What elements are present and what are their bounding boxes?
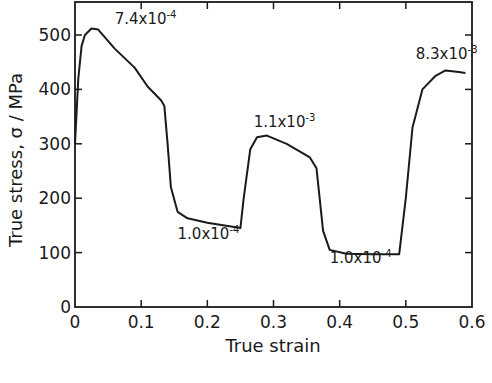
x-tick-label: 0.3: [260, 312, 287, 332]
y-tick-label: 200: [39, 188, 71, 208]
y-tick-label: 0: [60, 297, 71, 317]
strain-rate-label: 1.0x10-4: [330, 248, 392, 267]
y-tick-label: 100: [39, 243, 71, 263]
strain-rate-label: 7.4x10-4: [115, 9, 177, 28]
y-axis-ticks: 0100200300400500: [39, 25, 472, 317]
strain-rate-label: 8.3x10-3: [416, 44, 478, 63]
plot-frame: [75, 2, 472, 307]
y-tick-label: 400: [39, 79, 71, 99]
x-tick-label: 0.1: [128, 312, 155, 332]
x-tick-label: 0: [70, 312, 81, 332]
strain-rate-label: 1.0x10-4: [178, 224, 240, 243]
stress-strain-curve: [75, 29, 465, 255]
y-tick-label: 500: [39, 25, 71, 45]
x-tick-label: 0.2: [194, 312, 221, 332]
x-tick-label: 0.4: [326, 312, 353, 332]
x-tick-label: 0.5: [392, 312, 419, 332]
stress-strain-chart: 00.10.20.30.40.50.6 0100200300400500 7.4…: [0, 0, 492, 383]
x-axis-title: True strain: [224, 335, 320, 356]
strain-rate-label: 1.1x10-3: [254, 112, 316, 131]
x-tick-label: 0.6: [458, 312, 485, 332]
y-tick-label: 300: [39, 134, 71, 154]
strain-rate-annotations: 7.4x10-41.0x10-41.1x10-31.0x10-48.3x10-3: [115, 9, 478, 267]
y-axis-title: True stress, σ / MPa: [5, 73, 26, 248]
